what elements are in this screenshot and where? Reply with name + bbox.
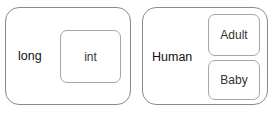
human-label: Human <box>152 50 192 64</box>
baby-label: Baby <box>220 73 247 87</box>
long-label: long <box>18 49 42 63</box>
adult-label: Adult <box>220 28 247 42</box>
adult-box: Adult <box>208 14 260 56</box>
baby-box: Baby <box>208 60 260 100</box>
int-box: int <box>60 30 121 83</box>
int-label: int <box>84 50 97 64</box>
